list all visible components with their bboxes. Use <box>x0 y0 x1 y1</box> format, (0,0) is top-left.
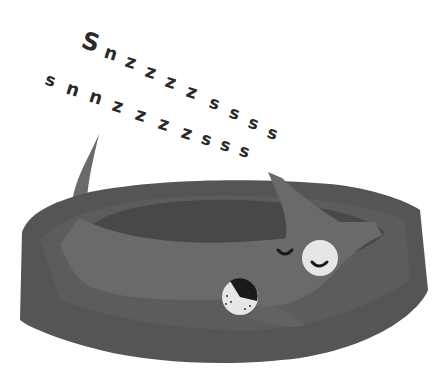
svg-text:s: s <box>246 112 262 134</box>
svg-text:s: s <box>43 69 59 91</box>
svg-text:s: s <box>218 134 234 156</box>
svg-text:n: n <box>87 85 106 109</box>
svg-text:s: s <box>199 128 215 150</box>
svg-text:z: z <box>133 103 149 126</box>
svg-text:z: z <box>156 112 172 135</box>
svg-text:s: s <box>207 92 223 114</box>
svg-text:z: z <box>123 50 139 73</box>
svg-text:s: s <box>262 136 264 138</box>
svg-text:z: z <box>179 121 195 144</box>
svg-text:z: z <box>163 70 179 93</box>
svg-text:s: s <box>265 122 281 144</box>
eye-patch <box>302 240 338 276</box>
sleeping-dog-illustration: S n z z z z s s s s s n n z z z z s s s … <box>0 0 448 374</box>
svg-text:S: S <box>78 26 103 58</box>
svg-text:z: z <box>110 94 126 117</box>
snore-text-line-1: S n z z z z s s s s <box>78 26 280 144</box>
svg-text:z: z <box>184 80 200 103</box>
svg-text:n: n <box>64 77 83 101</box>
svg-text:s: s <box>237 140 253 162</box>
svg-text:n: n <box>102 41 121 65</box>
svg-text:s: s <box>227 102 243 124</box>
svg-text:z: z <box>143 60 159 83</box>
